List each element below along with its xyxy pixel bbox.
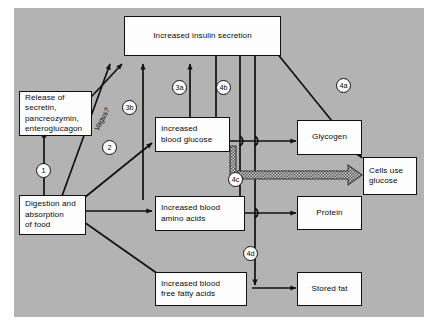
marker-label-1: 1 <box>41 166 45 175</box>
node-label-amino-acids: Increased blood amino acids <box>156 203 225 224</box>
marker-label-4c: 4c <box>232 175 240 184</box>
node-digestion-and-absorption[interactable]: Digestion and absorption of food <box>19 195 86 235</box>
node-increased-blood-glucose[interactable]: Increased blood glucose <box>155 117 230 152</box>
node-increased-insulin-secretion[interactable]: Increased insulin secretion <box>124 16 281 56</box>
node-label-stored-fat: Stored fat <box>306 284 352 295</box>
node-label-release: Release of secretin, pancreozymin, enter… <box>20 93 87 135</box>
marker-4c[interactable]: 4c <box>228 172 243 187</box>
marker-2[interactable]: 2 <box>102 140 117 155</box>
marker-label-3b: 3b <box>125 103 133 112</box>
node-stored-fat[interactable]: Stored fat <box>297 272 362 306</box>
node-label-glycogen: Glycogen <box>307 132 352 143</box>
marker-3a[interactable]: 3a <box>172 80 187 95</box>
node-increased-blood-amino-acids[interactable]: Increased blood amino acids <box>155 196 245 231</box>
marker-1[interactable]: 1 <box>36 163 51 178</box>
marker-4d[interactable]: 4d <box>243 246 258 261</box>
node-label-fatty-acids: Increased blood free fatty acids <box>156 279 225 300</box>
node-protein[interactable]: Protein <box>297 196 362 230</box>
diagram-canvas: Increased insulin secretion Release of s… <box>0 0 437 329</box>
marker-4b[interactable]: 4b <box>216 80 231 95</box>
node-label-insulin: Increased insulin secretion <box>148 31 257 42</box>
marker-4a[interactable]: 4a <box>336 78 351 93</box>
node-label-blood-glucose: Increased blood glucose <box>156 124 217 145</box>
marker-label-4b: 4b <box>219 83 227 92</box>
marker-label-3a: 3a <box>175 83 183 92</box>
node-cells-use-glucose[interactable]: Cells use glucose <box>363 157 417 195</box>
edge-digestion-glucose <box>84 143 152 198</box>
node-release-of-secretin[interactable]: Release of secretin, pancreozymin, enter… <box>19 91 92 136</box>
node-label-digestion: Digestion and absorption of food <box>20 199 81 231</box>
node-increased-blood-free-fatty-acids[interactable]: Increased blood free fatty acids <box>155 272 247 306</box>
marker-label-4d: 4d <box>246 249 254 258</box>
node-label-cells-use-glucose: Cells use glucose <box>364 166 408 187</box>
node-label-protein: Protein <box>311 208 347 219</box>
marker-3b[interactable]: 3b <box>122 100 137 115</box>
marker-label-2: 2 <box>107 143 111 152</box>
node-glycogen[interactable]: Glycogen <box>297 120 362 155</box>
marker-label-4a: 4a <box>339 81 347 90</box>
